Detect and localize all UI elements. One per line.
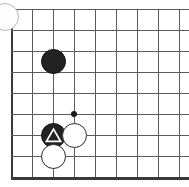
- grid-line-horizontal-4: [11, 93, 189, 94]
- grid-line-horizontal-6: [11, 135, 189, 136]
- grid-line-horizontal-2: [11, 51, 189, 52]
- triangle-mark-icon: [45, 127, 62, 144]
- star-point-d6: [71, 111, 77, 117]
- black-stone-upper: [41, 49, 66, 74]
- grid-line-horizontal-1: [11, 30, 189, 31]
- white-stone-below: [41, 144, 66, 169]
- grid-line-horizontal-8: [11, 177, 189, 180]
- grid-line-horizontal-0: [11, 9, 189, 10]
- white-stone-right: [62, 123, 87, 148]
- go-board-diagram: [0, 0, 189, 187]
- grid-line-horizontal-5: [11, 114, 189, 115]
- corner-circle-artifact: [0, 3, 19, 31]
- grid-line-horizontal-3: [11, 72, 189, 73]
- grid-line-horizontal-7: [11, 156, 189, 157]
